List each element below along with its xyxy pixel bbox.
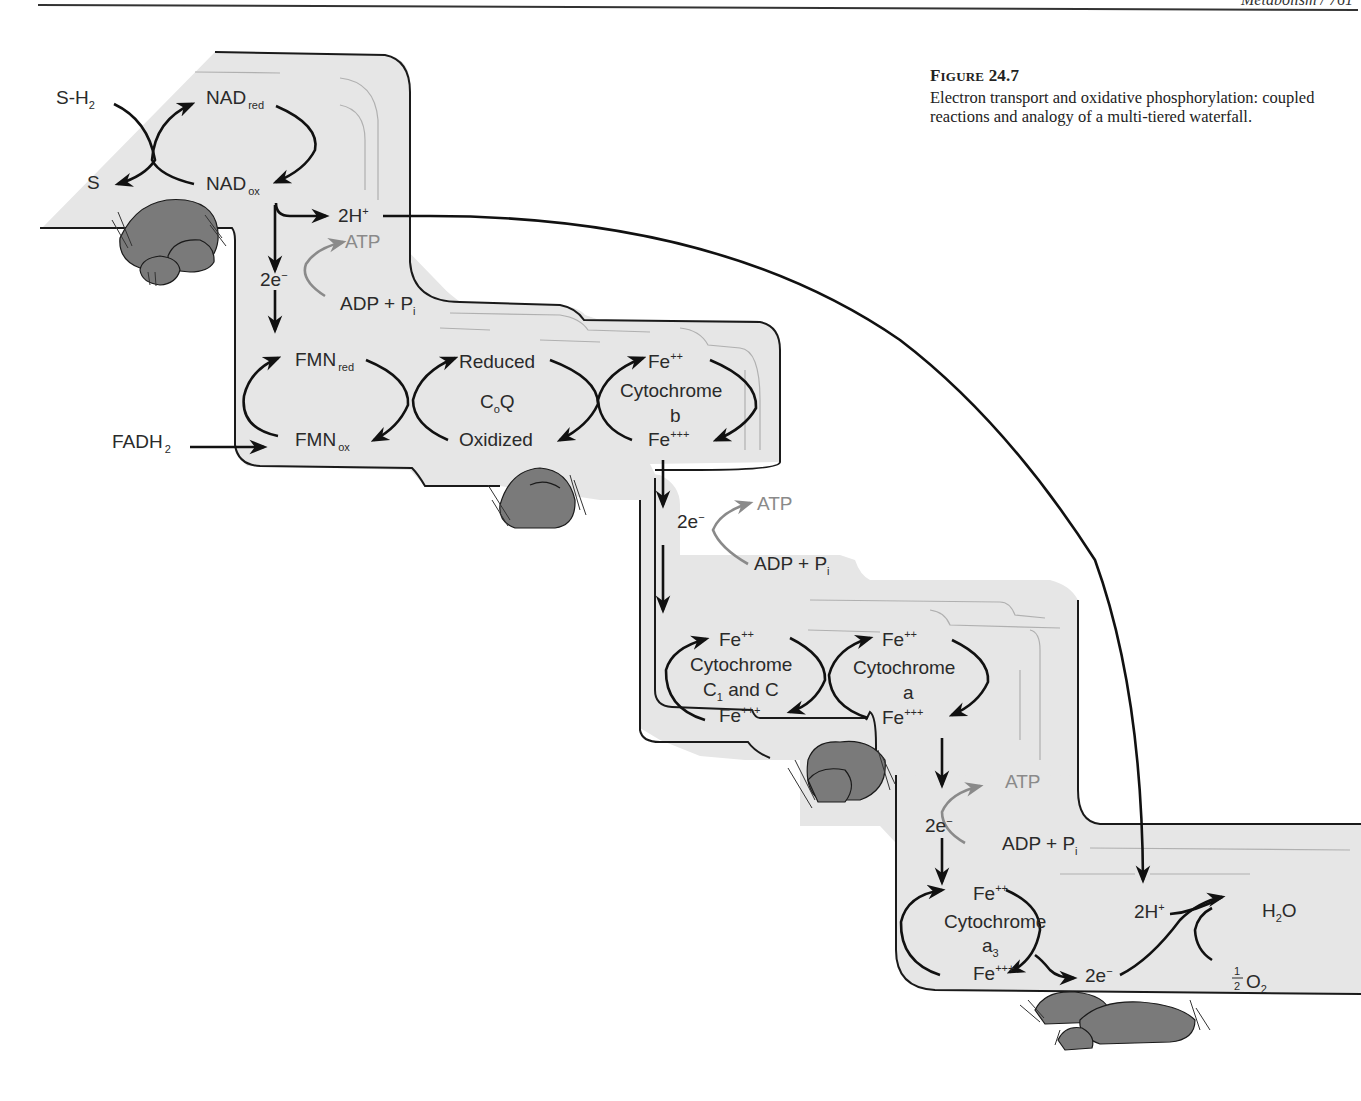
svg-text:C1 and C: C1 and C [703, 679, 779, 703]
svg-text:2e−: 2e− [677, 511, 705, 532]
figure-title: FIGURE 24.7 [930, 66, 1350, 86]
svg-text:a: a [903, 682, 914, 703]
svg-text:ADP + Pi: ADP + Pi [1002, 833, 1078, 857]
rock-cluster-4 [1020, 992, 1210, 1050]
svg-text:ADP + Pi: ADP + Pi [340, 293, 416, 317]
svg-text:Cytochrome: Cytochrome [944, 911, 1046, 932]
svg-text:Oxidized: Oxidized [459, 429, 533, 450]
figure-stage: Metabolism / 761 [0, 0, 1361, 1101]
svg-text:ATP: ATP [757, 493, 793, 514]
header-rule [38, 5, 1358, 10]
svg-text:ADP + Pi: ADP + Pi [754, 553, 830, 577]
figure-caption: FIGURE 24.7 Electron transport and oxida… [930, 66, 1350, 126]
svg-text:b: b [670, 405, 681, 426]
svg-text:2: 2 [1234, 980, 1240, 992]
svg-text:S-H2: S-H2 [56, 87, 95, 111]
svg-text:Cytochrome: Cytochrome [690, 654, 792, 675]
figure-caption-text: Electron transport and oxidative phospho… [930, 88, 1350, 126]
svg-text:ATP: ATP [345, 231, 381, 252]
svg-text:1: 1 [1234, 965, 1240, 977]
svg-text:Reduced: Reduced [459, 351, 535, 372]
svg-text:S: S [87, 172, 100, 193]
svg-text:FADH2: FADH2 [112, 431, 171, 455]
tier2-atp-arrow [713, 503, 750, 564]
svg-text:Cytochrome: Cytochrome [853, 657, 955, 678]
waterfall-diagram: S-H2 S NADred NADox 2H+ ATP 2e− ADP + Pi… [0, 0, 1361, 1101]
svg-text:ATP: ATP [1005, 771, 1041, 792]
svg-text:Cytochrome: Cytochrome [620, 380, 722, 401]
